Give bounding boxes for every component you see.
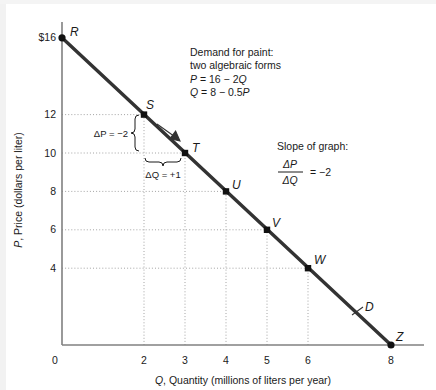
eq-p-body: = 16 − 2: [197, 73, 239, 85]
point-label-R: R: [70, 25, 79, 39]
x-tick-label-8: 8: [388, 354, 394, 366]
demand-note-line-1: Demand for paint:: [190, 46, 273, 58]
delta-p-brace: [131, 115, 139, 151]
point-marker-R: [58, 34, 65, 41]
arrow-head: [170, 131, 180, 141]
slope-note-equals: = −2: [310, 166, 331, 178]
x-axis-title-symbol: Q: [155, 374, 163, 386]
x-tick-label-5: 5: [264, 354, 270, 366]
demand-curve-figure: R S T U V W Z D $16 12 10 8 6 4 0 2 3 4 …: [0, 0, 436, 390]
x-tick-label-4: 4: [223, 354, 229, 366]
point-label-T: T: [192, 141, 201, 155]
x-tick-label-0: 0: [52, 354, 58, 366]
point-marker-T: [182, 150, 188, 156]
point-marker-V: [264, 227, 270, 233]
delta-p-label: ΔP = −2: [94, 128, 128, 139]
eq-q-body: = 8 − 0.5: [198, 86, 243, 98]
slope-note-title: Slope of graph:: [277, 140, 348, 152]
eq-q-symbol-p: P: [243, 86, 250, 98]
eq-p-symbol: P: [190, 73, 197, 85]
chart-svg: R S T U V W Z D $16 12 10 8 6 4 0 2 3 4 …: [0, 0, 436, 390]
point-label-Z: Z: [395, 330, 404, 344]
x-tick-label-6: 6: [305, 354, 311, 366]
delta-q-brace: [145, 158, 181, 166]
demand-note-equation-p: P = 16 − 2Q: [190, 73, 247, 85]
point-marker-W: [305, 265, 311, 271]
y-tick-label-4: 4: [50, 262, 56, 274]
slope-note: Slope of graph: ΔP ΔQ = −2: [277, 140, 348, 186]
delta-q-label: ΔQ = +1: [145, 169, 180, 180]
y-tick-label-10: 10: [44, 147, 56, 159]
demand-note-equation-q: Q = 8 − 0.5P: [190, 86, 250, 98]
x-tick-label-3: 3: [182, 354, 188, 366]
y-tick-label-8: 8: [50, 185, 56, 197]
curve-label-D: D: [365, 300, 374, 314]
point-marker-Z: [387, 341, 394, 348]
y-axis-title-symbol: P: [12, 241, 24, 248]
y-tick-label-12: 12: [44, 108, 56, 120]
x-axis-title-text: , Quantity (millions of liters per year): [163, 374, 331, 386]
demand-equations-note: Demand for paint: two algebraic forms P …: [190, 46, 281, 98]
x-tick-label-2: 2: [141, 354, 147, 366]
y-axis-title-text: , Price (dollars per liter): [12, 132, 24, 241]
point-marker-U: [223, 188, 229, 194]
point-label-V: V: [272, 216, 281, 230]
eq-p-symbol-q: Q: [238, 73, 246, 85]
y-tick-label-16: $16: [38, 31, 56, 43]
y-axis-title: P, Price (dollars per liter): [12, 132, 24, 248]
point-marker-S: [141, 111, 147, 117]
y-tick-label-6: 6: [50, 223, 56, 235]
demand-note-line-2: two algebraic forms: [190, 59, 281, 71]
point-label-W: W: [314, 253, 327, 267]
eq-q-symbol: Q: [190, 86, 198, 98]
x-axis-title: Q, Quantity (millions of liters per year…: [155, 374, 331, 386]
slope-note-denominator: ΔQ: [281, 174, 297, 186]
point-label-S: S: [146, 98, 154, 112]
point-label-U: U: [232, 178, 241, 192]
slope-note-numerator: ΔP: [282, 158, 297, 170]
